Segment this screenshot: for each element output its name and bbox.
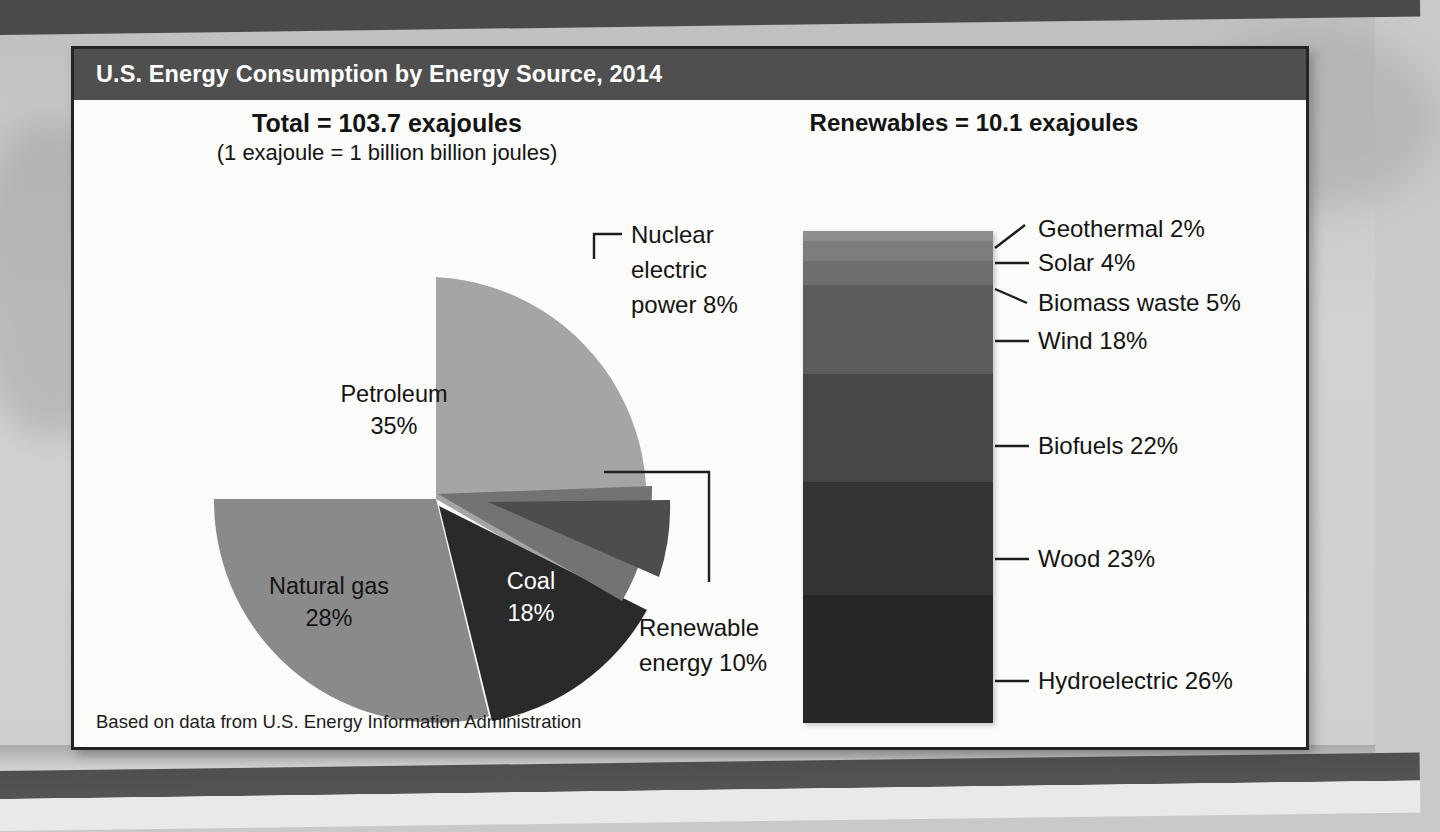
nuclear-callout-line1: Nuclear [631, 221, 714, 248]
bar-segment-geothermal [803, 231, 993, 241]
figure-panel: U.S. Energy Consumption by Energy Source… [71, 46, 1309, 750]
stacked-bar [803, 231, 993, 723]
nuclear-callout-line3: power 8% [631, 291, 738, 318]
bar-segment-solar [803, 241, 993, 261]
pie-slices [214, 277, 670, 723]
bar-segment-biofuels [803, 374, 993, 482]
bar-segment-wood [803, 482, 993, 595]
pie-value-natural-gas: 28% [305, 605, 352, 631]
source-note: Based on data from U.S. Energy Informati… [96, 711, 581, 733]
pie-heading: Total = 103.7 exajoules (1 exajoule = 1 … [152, 109, 622, 166]
pie-value-coal: 18% [507, 600, 554, 626]
pie-label-petroleum: Petroleum [340, 381, 447, 407]
pie-value-petroleum: 35% [370, 413, 417, 439]
renewable-callout-line1: Renewable [639, 614, 759, 641]
renewables-stacked-bar-chart: Geothermal 2% Solar 4% Biomass waste 5% … [803, 231, 1303, 731]
pie-total-label: Total = 103.7 exajoules [152, 109, 622, 139]
renewable-callout-line2: energy 10% [639, 649, 767, 676]
nuclear-callout-line2: electric [631, 256, 707, 283]
bar-heading: Renewables = 10.1 exajoules [714, 109, 1234, 137]
geothermal-leader-line [995, 225, 1025, 248]
biomass-waste-leader-line [995, 289, 1027, 303]
bar-label-wind: Wind 18% [1038, 327, 1147, 355]
bar-label-solar: Solar 4% [1038, 249, 1135, 277]
pie-label-natural-gas: Natural gas [269, 573, 389, 599]
bar-segment-biomass-waste [803, 261, 993, 286]
bar-label-geothermal: Geothermal 2% [1038, 215, 1205, 243]
pie-unit-note: (1 exajoule = 1 billion billion joules) [152, 140, 622, 166]
bar-segment-hydroelectric [803, 595, 993, 723]
bar-label-biofuels: Biofuels 22% [1038, 432, 1178, 460]
nuclear-leader-line [594, 234, 622, 259]
figure-title-bar: U.S. Energy Consumption by Energy Source… [74, 49, 1306, 100]
page-top-dark-band [0, 0, 1420, 36]
bar-segment-wind [803, 285, 993, 374]
pie-chart: Petroleum 35% Natural gas 28% Coal 18% N… [94, 169, 734, 689]
bar-label-wood: Wood 23% [1038, 545, 1155, 573]
bar-label-biomass-waste: Biomass waste 5% [1038, 289, 1241, 317]
figure-title: U.S. Energy Consumption by Energy Source… [74, 61, 662, 88]
bar-label-hydroelectric: Hydroelectric 26% [1038, 667, 1233, 695]
pie-label-coal: Coal [507, 568, 555, 594]
